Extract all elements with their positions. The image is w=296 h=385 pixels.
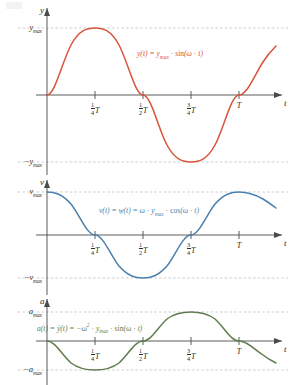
- label-v-max: vmax: [2, 188, 42, 198]
- acceleration-plot: [0, 295, 296, 385]
- equation-displacement: y(t) = ymax · sin(ω · t): [137, 50, 203, 60]
- ticklabel-full-2: T: [232, 242, 246, 250]
- equation-velocity: v(t) = ẉ(t) = ω · ymax · cos(ω · t): [99, 207, 199, 217]
- ticklabel-quarter-3: 14T: [85, 348, 105, 362]
- sine-motion-figure: y t ymax −ymax 14T 12T 34T T y(t) = ymax…: [0, 0, 296, 385]
- y-axis-arrow: [44, 8, 50, 16]
- axis-label-y: y: [40, 6, 44, 15]
- v-axis-arrow: [44, 180, 50, 188]
- ticklabel-half-2: 12T: [133, 242, 153, 256]
- displacement-plot: [0, 0, 296, 175]
- axis-label-a: a: [40, 297, 45, 306]
- panel-displacement: y t ymax −ymax 14T 12T 34T T y(t) = ymax…: [0, 0, 296, 175]
- ticklabel-full-1: T: [232, 102, 246, 110]
- ticklabel-quarter-2: 14T: [85, 242, 105, 256]
- label-neg-v-max: −vmax: [0, 274, 42, 284]
- t-axis-arrow: [274, 92, 282, 98]
- velocity-plot: [0, 175, 296, 295]
- ticklabel-quarter-1: 14T: [85, 102, 105, 116]
- label-y-max: ymax: [2, 24, 42, 34]
- label-neg-a-max: −amax: [0, 366, 42, 376]
- ticklabel-half-1: 12T: [133, 102, 153, 116]
- t-axis-arrow-3: [274, 338, 282, 344]
- panel-acceleration: a t amax −amax 14T 12T 34T T a(t) = ÿ(t)…: [0, 295, 296, 385]
- equation-acceleration: a(t) = ÿ(t) = −ω2 · ymax · sin(ω · t): [37, 323, 142, 334]
- label-a-max: amax: [2, 308, 42, 318]
- ticklabel-three-quarter-3: 34T: [181, 348, 201, 362]
- panel-velocity: v t vmax −vmax 14T 12T 34T T v(t) = ẉ(t)…: [0, 175, 296, 295]
- axis-label-t-1: t: [284, 99, 287, 108]
- axis-label-v: v: [40, 178, 44, 187]
- ticklabel-three-quarter-2: 34T: [181, 242, 201, 256]
- t-axis-arrow-2: [274, 232, 282, 238]
- axis-label-t-2: t: [284, 239, 287, 248]
- axis-label-t-3: t: [284, 345, 287, 354]
- ticklabel-three-quarter-1: 34T: [181, 102, 201, 116]
- label-neg-y-max: −ymax: [0, 158, 42, 168]
- ticklabel-full-3: T: [232, 348, 246, 356]
- ticklabel-half-3: 12T: [133, 348, 153, 362]
